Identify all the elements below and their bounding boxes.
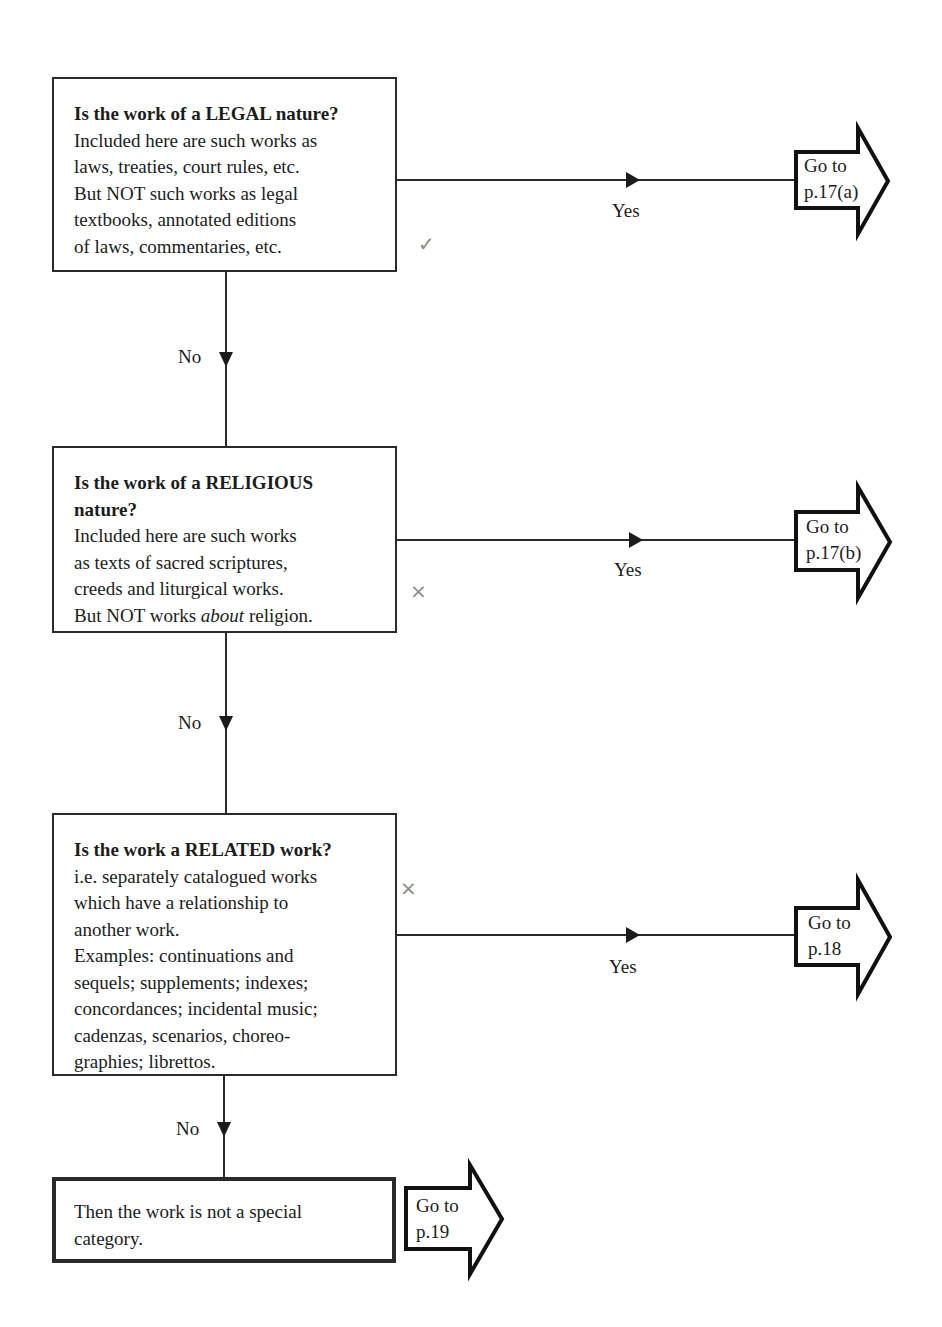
goto-line-1: Go to	[416, 1193, 459, 1219]
description-line: Included here are such works	[74, 523, 375, 550]
description-line: Examples: continuations and	[74, 943, 375, 970]
description-line: sequels; supplements; indexes;	[74, 970, 375, 997]
arrowhead-right-icon	[626, 927, 640, 943]
goto-button-p19[interactable]: Go to p.19	[416, 1193, 459, 1245]
yes-label-related: Yes	[609, 957, 637, 977]
pencil-x-mark-icon: ×	[410, 579, 427, 603]
goto-page: p.17(b)	[806, 540, 861, 566]
yes-label-religious: Yes	[614, 560, 642, 580]
description-line: i.e. separately catalogued works	[74, 864, 375, 891]
arrowhead-right-icon	[629, 532, 643, 548]
text-post: religion.	[244, 605, 313, 626]
description-line: cadenzas, scenarios, choreo-	[74, 1023, 375, 1050]
description-line: of laws, commentaries, etc.	[74, 234, 375, 261]
question-title: Is the work a RELATED work?	[74, 837, 375, 864]
question-title-line-2: nature?	[74, 497, 375, 524]
goto-page: p.18	[808, 936, 851, 962]
goto-line-1: Go to	[804, 153, 858, 179]
description-line: creeds and liturgical works.	[74, 576, 375, 603]
goto-button-p18[interactable]: Go to p.18	[808, 910, 851, 962]
goto-button-p17a[interactable]: Go to p.17(a)	[804, 153, 858, 205]
goto-page: p.17(a)	[804, 179, 858, 205]
goto-page: p.19	[416, 1219, 459, 1245]
arrowhead-right-icon	[626, 172, 640, 188]
description-line: another work.	[74, 917, 375, 944]
description-line: Included here are such works as	[74, 128, 375, 155]
no-label-related: No	[176, 1119, 199, 1139]
question-title-line-1: Is the work of a RELIGIOUS	[74, 470, 375, 497]
result-line: Then the work is not a special	[74, 1199, 374, 1226]
question-box-legal: Is the work of a LEGAL nature? Included …	[52, 77, 397, 272]
description-line: concordances; incidental music;	[74, 996, 375, 1023]
question-box-related: Is the work a RELATED work? i.e. separat…	[52, 813, 397, 1076]
question-box-religious: Is the work of a RELIGIOUS nature? Inclu…	[52, 446, 397, 633]
description-line-emphasis: But NOT works about religion.	[74, 603, 375, 630]
yes-label-legal: Yes	[612, 201, 640, 221]
arrowhead-down-icon	[219, 716, 233, 731]
arrowhead-down-icon	[219, 352, 233, 367]
description-line: as texts of sacred scriptures,	[74, 550, 375, 577]
question-title: Is the work of a LEGAL nature?	[74, 101, 375, 128]
description-line: textbooks, annotated editions	[74, 207, 375, 234]
result-line: category.	[74, 1226, 374, 1253]
pencil-x-mark-icon: ×	[400, 876, 417, 900]
description-line: which have a relationship to	[74, 890, 375, 917]
text-pre: But NOT works	[74, 605, 201, 626]
final-result-box: Then the work is not a special category.	[52, 1177, 396, 1263]
pencil-check-mark-icon: ✓	[418, 232, 435, 256]
goto-line-1: Go to	[806, 514, 861, 540]
no-label-religious: No	[178, 713, 201, 733]
no-label-legal: No	[178, 347, 201, 367]
arrowhead-down-icon	[217, 1122, 231, 1137]
goto-button-p17b[interactable]: Go to p.17(b)	[806, 514, 861, 566]
goto-line-1: Go to	[808, 910, 851, 936]
text-emphasis: about	[201, 605, 244, 626]
description-line: But NOT such works as legal	[74, 181, 375, 208]
description-line: graphies; librettos.	[74, 1049, 375, 1076]
description-line: laws, treaties, court rules, etc.	[74, 154, 375, 181]
